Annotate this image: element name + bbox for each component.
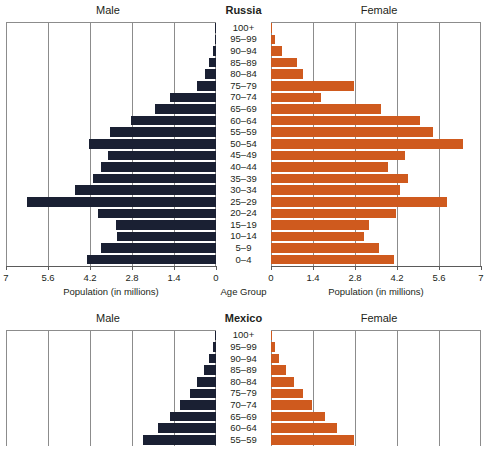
female-axis-line bbox=[271, 266, 481, 267]
table-row bbox=[6, 150, 216, 162]
table-row bbox=[271, 376, 481, 388]
age-group-column: 100+95–9990–9485–8980–8475–7970–7465–696… bbox=[216, 22, 271, 266]
male-bar bbox=[197, 81, 216, 91]
age-group-label: 100+ bbox=[216, 22, 271, 34]
age-group-label: 70–74 bbox=[216, 399, 271, 411]
female-bar bbox=[271, 389, 303, 399]
pyramid-russia: MaleRussiaFemale100+95–9990–9485–8980–84… bbox=[0, 0, 487, 296]
axis-tick bbox=[397, 266, 398, 270]
female-bar bbox=[271, 400, 312, 410]
table-row bbox=[6, 68, 216, 80]
chart-header: MaleMexicoFemale bbox=[0, 308, 487, 330]
table-row bbox=[6, 422, 216, 434]
plot-body: 100+95–9990–9485–8980–8475–7970–7465–696… bbox=[0, 330, 487, 446]
female-bar bbox=[271, 151, 405, 161]
male-axis-line bbox=[6, 266, 216, 267]
table-row bbox=[271, 208, 481, 220]
table-row bbox=[6, 45, 216, 57]
axis-tick bbox=[132, 266, 133, 270]
table-row bbox=[271, 161, 481, 173]
table-row bbox=[6, 399, 216, 411]
age-group-column: 100+95–9990–9485–8980–8475–7970–7465–696… bbox=[216, 330, 271, 446]
table-row bbox=[271, 150, 481, 162]
table-row bbox=[6, 254, 216, 266]
male-bar bbox=[110, 127, 217, 137]
table-row bbox=[6, 126, 216, 138]
age-group-label: 5–9 bbox=[216, 242, 271, 254]
age-group-label: 90–94 bbox=[216, 353, 271, 365]
female-bar bbox=[271, 232, 364, 242]
table-row bbox=[6, 330, 216, 342]
female-bar bbox=[271, 220, 369, 230]
female-bar bbox=[271, 35, 275, 45]
table-row bbox=[271, 353, 481, 365]
table-row bbox=[271, 196, 481, 208]
table-row bbox=[271, 330, 481, 342]
male-bar bbox=[143, 435, 217, 445]
axis-tick-label: 1.4 bbox=[167, 272, 180, 283]
pyramid-mexico: MaleMexicoFemale100+95–9990–9485–8980–84… bbox=[0, 308, 487, 446]
axis-tick bbox=[48, 266, 49, 270]
male-bar bbox=[93, 174, 216, 184]
age-group-label: 60–64 bbox=[216, 422, 271, 434]
male-bar bbox=[205, 69, 216, 79]
male-bar bbox=[197, 377, 216, 387]
axis-tick bbox=[90, 266, 91, 270]
axis-tick-label: 4.2 bbox=[390, 272, 403, 283]
axis-tick bbox=[6, 266, 7, 270]
female-bar bbox=[271, 174, 408, 184]
table-row bbox=[271, 103, 481, 115]
table-row bbox=[6, 376, 216, 388]
male-bar bbox=[101, 162, 217, 172]
male-plot-area bbox=[6, 22, 216, 266]
female-bar bbox=[271, 58, 297, 68]
age-group-label: 55–59 bbox=[216, 126, 271, 138]
male-bar bbox=[158, 423, 217, 433]
page-title: Russia bbox=[216, 4, 271, 16]
male-bar bbox=[117, 232, 216, 242]
table-row bbox=[6, 92, 216, 104]
table-row bbox=[6, 219, 216, 231]
axis-tick bbox=[355, 266, 356, 270]
female-bar bbox=[271, 209, 396, 219]
table-row bbox=[271, 254, 481, 266]
table-row bbox=[271, 68, 481, 80]
table-row bbox=[271, 115, 481, 127]
female-bars bbox=[271, 330, 481, 446]
female-bar bbox=[271, 185, 400, 195]
axis-tick-label: 0 bbox=[268, 272, 273, 283]
age-group-label: 55–59 bbox=[216, 434, 271, 446]
axis-tick-label: 0 bbox=[213, 272, 218, 283]
age-group-label: 10–14 bbox=[216, 231, 271, 243]
table-row bbox=[271, 341, 481, 353]
table-row bbox=[271, 173, 481, 185]
male-bar bbox=[155, 104, 217, 114]
female-bar bbox=[271, 93, 321, 103]
male-bars bbox=[6, 22, 216, 266]
axis-tick bbox=[174, 266, 175, 270]
male-bar bbox=[108, 151, 216, 161]
male-plot-area bbox=[6, 330, 216, 446]
axis-tick-label: 5.6 bbox=[432, 272, 445, 283]
male-bar bbox=[209, 58, 216, 68]
axis-tick-label: 4.2 bbox=[83, 272, 96, 283]
age-group-label: 85–89 bbox=[216, 57, 271, 69]
age-group-label: 75–79 bbox=[216, 80, 271, 92]
table-row bbox=[271, 242, 481, 254]
female-axis-title: Population (in millions) bbox=[328, 286, 424, 297]
plot-body: 100+95–9990–9485–8980–8475–7970–7465–696… bbox=[0, 22, 487, 266]
center-axis-title: Age Group bbox=[221, 286, 267, 297]
female-bar bbox=[271, 435, 354, 445]
female-bar bbox=[271, 139, 463, 149]
age-group-label: 75–79 bbox=[216, 388, 271, 400]
female-bar bbox=[271, 162, 388, 172]
table-row bbox=[6, 208, 216, 220]
male-bar bbox=[101, 243, 217, 253]
axis-tick-label: 7 bbox=[3, 272, 8, 283]
table-row bbox=[6, 231, 216, 243]
male-bars bbox=[6, 330, 216, 446]
table-row bbox=[271, 34, 481, 46]
table-row bbox=[271, 184, 481, 196]
table-row bbox=[271, 22, 481, 34]
female-bar bbox=[271, 354, 279, 364]
